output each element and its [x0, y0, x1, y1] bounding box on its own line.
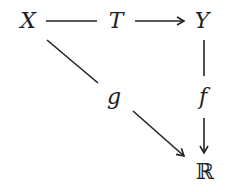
node-y: Y — [195, 10, 210, 32]
commutative-diagram: X T Y g f ℝ — [0, 0, 226, 192]
arrow-g-r-segment — [133, 111, 184, 156]
edge-label-g: g — [107, 86, 121, 108]
node-reals: ℝ — [196, 161, 214, 183]
edge-label-f: f — [199, 86, 207, 108]
arrow-x-g-segment — [47, 40, 98, 83]
node-x: X — [20, 10, 36, 32]
edge-label-t: T — [109, 10, 124, 32]
